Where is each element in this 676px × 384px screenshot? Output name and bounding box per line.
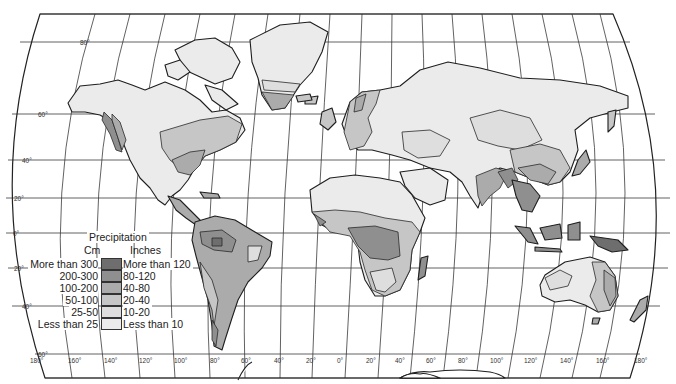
lon-label: 0° <box>337 357 344 364</box>
lon-label: 40° <box>274 357 284 364</box>
legend-inches-value: More than 120 <box>123 258 193 270</box>
south-america <box>192 216 272 350</box>
africa <box>310 168 448 296</box>
maritime-southeast-asia <box>515 222 628 252</box>
lon-label: 80° <box>210 357 220 364</box>
legend-cm-value: 200-300 <box>57 270 98 282</box>
legend-row: 25-50 10-20 <box>0 306 200 318</box>
legend-inches-value: 40-80 <box>123 282 152 294</box>
greenland <box>250 22 328 110</box>
lon-label: 180° <box>634 357 648 364</box>
australia <box>540 257 618 324</box>
legend-inches-value: 80-120 <box>123 270 158 282</box>
longitude-labels: 180° 160° 140° 120° 100° 80° 60° 40° 20°… <box>30 357 648 364</box>
legend-swatch <box>101 318 122 330</box>
lon-label: 140° <box>560 357 574 364</box>
legend-row: More than 300 More than 120 <box>0 258 200 270</box>
legend-cm-header: Cm <box>84 244 100 256</box>
lon-label: 60° <box>241 357 251 364</box>
lon-label: 120° <box>139 357 153 364</box>
legend-row: 50-100 20-40 <box>0 294 200 306</box>
legend-inches-header: Inches <box>130 244 161 256</box>
legend-cm-value: Less than 25 <box>36 318 98 330</box>
lon-label: 120° <box>524 357 538 364</box>
legend-row: 100-200 40-80 <box>0 282 200 294</box>
lon-label: 100° <box>490 357 504 364</box>
north-america <box>68 38 245 205</box>
legend-swatch <box>101 258 122 270</box>
kamchatka <box>608 110 616 132</box>
lon-label: 160° <box>68 357 82 364</box>
lon-label: 40° <box>395 357 405 364</box>
legend-cm-value: 25-50 <box>69 306 98 318</box>
legend-swatch <box>101 282 122 294</box>
british-isles <box>320 108 336 130</box>
lon-label: 160° <box>596 357 610 364</box>
legend-swatch <box>101 270 122 282</box>
lon-label: 140° <box>104 357 118 364</box>
lon-label: 20° <box>366 357 376 364</box>
legend-cm-value: 50-100 <box>63 294 98 306</box>
lon-label: 60° <box>426 357 436 364</box>
legend-row: Less than 25 Less than 10 <box>0 318 200 330</box>
legend-swatch <box>101 306 122 318</box>
precipitation-legend: Precipitation Cm Inches More than 300 Mo… <box>0 228 200 338</box>
legend-inches-value: Less than 10 <box>123 318 185 330</box>
lat-label-40n: 40° <box>22 157 32 164</box>
legend-row: 200-300 80-120 <box>0 270 200 282</box>
legend-inches-value: 20-40 <box>123 294 152 306</box>
legend-cm-value: 100-200 <box>57 282 98 294</box>
lat-label-20n: 20° <box>14 195 24 202</box>
lat-label-80n: 80° <box>80 39 90 46</box>
lon-label: 20° <box>306 357 316 364</box>
lon-label: 80° <box>458 357 468 364</box>
lon-label: 100° <box>174 357 188 364</box>
iceland <box>296 94 312 102</box>
lat-label-60n: 60° <box>38 111 48 118</box>
legend-inches-value: 10-20 <box>123 306 152 318</box>
legend-title: Precipitation <box>87 231 149 243</box>
legend-swatch <box>101 294 122 306</box>
lon-label: 180° <box>30 357 44 364</box>
legend-cm-value: More than 300 <box>28 258 98 270</box>
